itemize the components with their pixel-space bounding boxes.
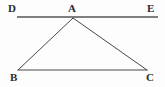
geometry-figure: D A E B C [0,0,165,87]
vertex-label-d: D [8,3,16,14]
vertex-label-e: E [147,3,154,14]
vertex-label-c: C [146,72,154,83]
segment-ac [73,18,147,70]
vertex-label-b: B [10,72,17,83]
segment-ab [18,18,73,70]
geometry-drawing [0,0,165,87]
vertex-label-a: A [68,3,76,14]
